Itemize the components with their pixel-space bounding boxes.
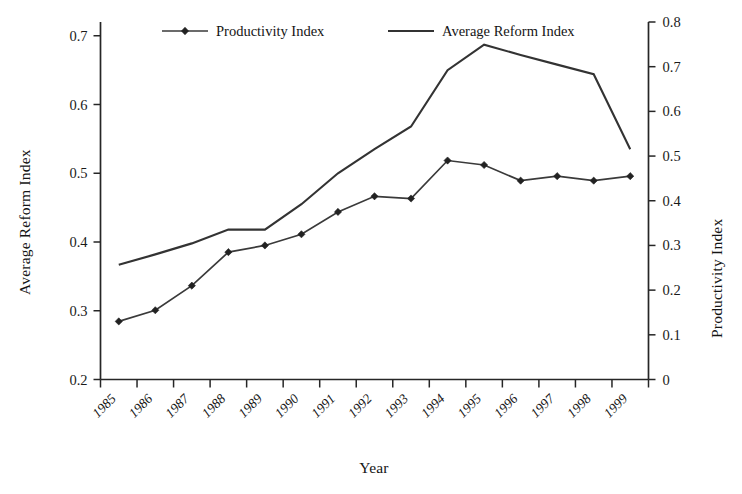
- y-axis-left-tick-label: 0.7: [69, 28, 87, 44]
- y-axis-right-tick-label: 0.5: [663, 148, 681, 164]
- x-axis-tick-label: 1991: [308, 391, 338, 421]
- x-axis-tick-label: 1986: [126, 391, 156, 421]
- x-axis-tick-label: 1994: [418, 391, 448, 421]
- data-point-marker: [590, 177, 597, 184]
- x-axis-tick-label: 1993: [381, 391, 411, 421]
- y-axis-left-tick-label: 0.5: [69, 165, 87, 181]
- x-axis-tick-label: 1998: [564, 391, 594, 421]
- x-axis-tick-label: 1997: [528, 390, 559, 421]
- y-axis-left-tick-label: 0.2: [69, 372, 87, 388]
- x-axis-tick-label: 1987: [162, 390, 193, 421]
- x-axis-tick-label: 1989: [235, 391, 265, 421]
- chart-figure: 0.20.30.40.50.60.7 00.10.20.30.40.50.60.…: [0, 0, 742, 494]
- y-axis-right-tick-label: 0: [663, 372, 670, 388]
- data-point-marker: [517, 177, 524, 184]
- x-axis-tick-label: 1995: [455, 391, 485, 421]
- series-layer: [115, 45, 634, 325]
- y-axis-right-tick-label: 0.1: [663, 327, 681, 343]
- x-axis-tick-labels: 1985198619871988198919901991199219931994…: [89, 390, 630, 421]
- x-axis-tick-label: 1999: [601, 391, 631, 421]
- x-axis-tick-label: 1988: [199, 391, 229, 421]
- y-axis-right-tick-label: 0.8: [663, 14, 681, 30]
- y-axis-right-tick-label: 0.7: [663, 59, 681, 75]
- y-axis-left-title: Average Reform Index: [16, 149, 33, 295]
- legend-label-productivity-index: Productivity Index: [216, 23, 325, 39]
- y-axis-right-tick-label: 0.4: [663, 193, 682, 209]
- y-axis-right-title: Productivity Index: [708, 219, 725, 338]
- y-axis-right-tick-labels: 00.10.20.30.40.50.60.70.8: [663, 14, 682, 388]
- legend-marker-productivity-index: [181, 27, 188, 35]
- data-point-marker: [481, 161, 488, 168]
- x-axis-tick-label: 1992: [345, 391, 375, 421]
- legend-label-average-reform-index: Average Reform Index: [442, 23, 575, 39]
- plot-frame: [101, 22, 649, 380]
- data-point-marker: [115, 318, 122, 325]
- chart-legend: Productivity Index Average Reform Index: [162, 23, 575, 39]
- data-point-marker: [554, 173, 561, 180]
- x-axis-tick-label: 1985: [89, 391, 119, 421]
- x-axis-ticks: [101, 380, 649, 388]
- x-axis-tick-label: 1996: [491, 391, 521, 421]
- y-axis-left-tick-label: 0.6: [69, 97, 87, 113]
- x-axis-tick-label: 1990: [272, 391, 302, 421]
- data-point-marker: [371, 193, 378, 200]
- y-axis-right-tick-label: 0.6: [663, 103, 681, 119]
- y-axis-right-tick-label: 0.2: [663, 282, 681, 298]
- y-axis-left-tick-labels: 0.20.30.40.50.60.7: [69, 28, 88, 388]
- y-axis-right-tick-label: 0.3: [663, 237, 681, 253]
- y-axis-left-ticks: [94, 36, 101, 380]
- line-chart-canvas: 0.20.30.40.50.60.7 00.10.20.30.40.50.60.…: [0, 0, 742, 494]
- data-point-marker: [261, 242, 268, 249]
- y-axis-right-ticks: [649, 22, 656, 380]
- data-point-marker: [627, 173, 634, 180]
- x-axis-title: Year: [359, 459, 389, 476]
- series-line-average-reform-index: [119, 45, 630, 265]
- y-axis-left-tick-label: 0.3: [69, 303, 87, 319]
- y-axis-left-tick-label: 0.4: [69, 234, 88, 250]
